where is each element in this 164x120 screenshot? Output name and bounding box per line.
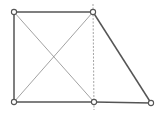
bottom-right-edge (94, 102, 151, 103)
vertex-bottom-middle (91, 99, 96, 104)
vertex-bottom-right (148, 100, 153, 105)
vertex-top-right (90, 9, 95, 14)
dashed-vertical-line (93, 4, 94, 110)
slant-edge (93, 12, 151, 103)
diagonals-layer (14, 12, 94, 102)
vertex-bottom-left (11, 99, 16, 104)
dashed-layer (93, 4, 94, 110)
geometry-diagram (0, 0, 164, 120)
vertex-top-left (11, 9, 16, 14)
